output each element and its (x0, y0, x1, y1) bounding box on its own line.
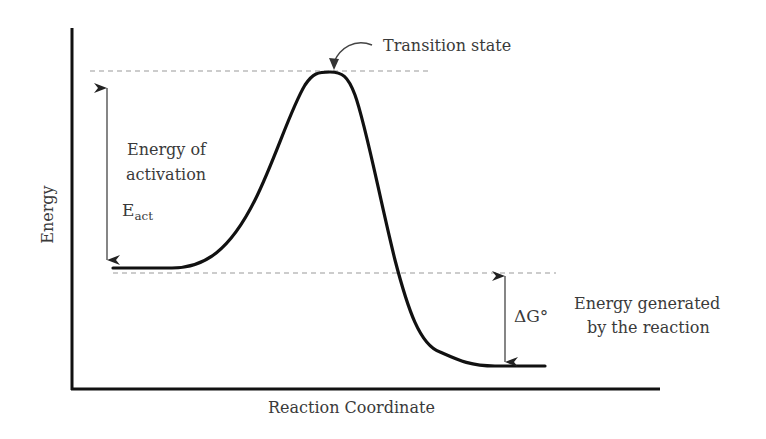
transition-state-label: Transition state (383, 36, 511, 55)
x-axis-label: Reaction Coordinate (268, 398, 435, 417)
eact-subscript: act (134, 209, 153, 223)
energy-curve (113, 72, 545, 366)
eact-label: Eact (122, 200, 153, 223)
energy-generated-line1: Energy generated (574, 294, 720, 313)
delta-g-label: ΔG° (514, 306, 548, 326)
energy-diagram (0, 0, 766, 439)
transition-state-pointer-head (329, 58, 339, 70)
energy-generated-line2: by the reaction (587, 318, 710, 337)
y-axis-label: Energy (38, 185, 57, 243)
activation-label-line2: activation (126, 165, 206, 184)
activation-label-line1: Energy of (127, 140, 206, 159)
transition-state-pointer (334, 43, 372, 62)
eact-main: E (122, 200, 134, 220)
